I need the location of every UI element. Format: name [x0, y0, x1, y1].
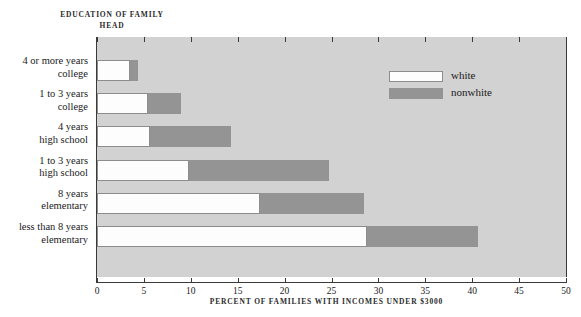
category-label-line: 1 to 3 years: [0, 88, 88, 101]
bar-row: [97, 60, 566, 81]
category-label-line: college: [0, 68, 88, 81]
x-tick-top: [97, 37, 98, 42]
x-tick-bottom: [472, 278, 473, 283]
x-tick-top: [425, 37, 426, 42]
legend-swatch-white: [389, 71, 443, 82]
bar-segment-white: [97, 93, 148, 114]
category-label-line: 4 years: [0, 121, 88, 134]
x-tick-bottom: [238, 278, 239, 283]
chart-figure: EDUCATION OF FAMILY HEAD 051015202530354…: [0, 0, 581, 317]
bar-row: [97, 160, 566, 181]
x-tick-label: 10: [176, 286, 206, 296]
x-tick-top: [332, 37, 333, 42]
x-tick-label: 40: [457, 286, 487, 296]
x-tick-top: [238, 37, 239, 42]
bar-row: [97, 226, 566, 247]
x-tick-bottom: [97, 278, 98, 283]
x-tick-top: [144, 37, 145, 42]
legend-label-white: white: [451, 69, 475, 81]
bar-segment-white: [97, 126, 150, 147]
category-label: 8 yearselementary: [0, 188, 88, 213]
legend-swatch-nonwhite: [389, 88, 443, 99]
x-tick-top: [566, 37, 567, 42]
x-tick-label: 45: [504, 286, 534, 296]
x-tick-bottom: [191, 278, 192, 283]
category-label: 4 or more yearscollege: [0, 55, 88, 80]
x-tick-bottom: [425, 278, 426, 283]
category-label-line: elementary: [0, 200, 88, 213]
category-label: 1 to 3 yearscollege: [0, 88, 88, 113]
category-label: 1 to 3 yearshigh school: [0, 155, 88, 180]
x-tick-label: 30: [363, 286, 393, 296]
x-tick-bottom: [378, 278, 379, 283]
category-label-line: 1 to 3 years: [0, 155, 88, 168]
x-tick-label: 5: [129, 286, 159, 296]
x-tick-top: [472, 37, 473, 42]
bar-segment-white: [97, 60, 130, 81]
bar-segment-white: [97, 160, 189, 181]
x-tick-bottom: [285, 278, 286, 283]
bar-segment-white: [97, 226, 367, 247]
legend-label-nonwhite: nonwhite: [451, 86, 492, 98]
bar-row: [97, 93, 566, 114]
bar-row: [97, 193, 566, 214]
category-label-line: high school: [0, 134, 88, 147]
category-label-line: high school: [0, 167, 88, 180]
bar-row: [97, 126, 566, 147]
x-axis-title: PERCENT OF FAMILIES WITH INCOMES UNDER $…: [0, 297, 581, 306]
x-tick-label: 50: [551, 286, 581, 296]
x-tick-top: [285, 37, 286, 42]
category-label-line: elementary: [0, 234, 88, 247]
category-label: 4 yearshigh school: [0, 121, 88, 146]
category-label: less than 8 yearselementary: [0, 221, 88, 246]
chart-header-caption: EDUCATION OF FAMILY HEAD: [52, 9, 172, 31]
category-label-line: 4 or more years: [0, 55, 88, 68]
x-tick-bottom: [566, 278, 567, 283]
bar-segment-white: [97, 193, 260, 214]
category-label-line: college: [0, 101, 88, 114]
x-tick-top: [519, 37, 520, 42]
x-tick-top: [378, 37, 379, 42]
x-tick-label: 25: [317, 286, 347, 296]
x-tick-label: 35: [410, 286, 440, 296]
plot-right-border: [566, 37, 567, 277]
x-tick-bottom: [332, 278, 333, 283]
category-label-line: 8 years: [0, 188, 88, 201]
x-tick-label: 15: [223, 286, 253, 296]
category-label-line: less than 8 years: [0, 221, 88, 234]
x-tick-label: 0: [82, 286, 112, 296]
x-tick-bottom: [519, 278, 520, 283]
x-tick-bottom: [144, 278, 145, 283]
x-tick-top: [191, 37, 192, 42]
x-tick-label: 20: [270, 286, 300, 296]
